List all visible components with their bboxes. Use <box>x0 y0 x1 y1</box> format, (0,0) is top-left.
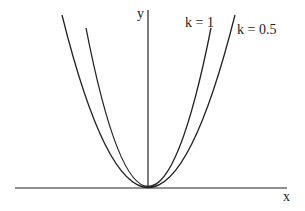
y-axis-label: y <box>137 7 144 21</box>
x-axis-label: x <box>283 190 290 204</box>
curve-label-k-0.5: k = 0.5 <box>237 23 276 37</box>
curve-label-k-1: k = 1 <box>185 16 214 30</box>
